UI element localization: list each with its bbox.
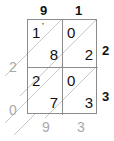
lattice-multiplication-figure: 9 1 2 3 2 0 9 3 1 ’ 8 0 2 2 7 0 3 — [0, 0, 114, 141]
lattice-cell-r0c0: 1 ’ 8 — [28, 20, 62, 67]
cell-units-digit: 8 — [50, 47, 58, 62]
multiplier-digit-1: 3 — [102, 90, 109, 103]
result-digit-bottom-0: 9 — [42, 120, 50, 134]
cell-tens-digit: 2 — [32, 73, 40, 88]
multiplicand-digit-1: 1 — [75, 4, 82, 17]
lattice-cell-r1c0: 2 7 — [28, 68, 62, 115]
lattice-cell-r0c1: 0 2 — [63, 20, 97, 67]
lattice-cell-r1c1: 0 3 — [63, 68, 97, 115]
multiplicand-digit-0: 9 — [40, 4, 47, 17]
diagonal-line-d — [14, 114, 35, 135]
result-digit-bottom-1: 3 — [77, 120, 85, 134]
cell-carry-tick: ’ — [42, 22, 44, 31]
multiplier-digit-0: 2 — [102, 44, 109, 57]
result-digit-left-0: 2 — [9, 60, 17, 74]
cell-units-digit: 3 — [85, 95, 93, 110]
cell-units-digit: 2 — [85, 47, 93, 62]
cell-tens-digit: 1 — [32, 25, 40, 40]
lattice-grid: 1 ’ 8 0 2 2 7 0 3 — [27, 19, 97, 114]
cell-tens-digit: 0 — [67, 73, 75, 88]
cell-units-digit: 7 — [50, 95, 58, 110]
cell-tens-digit: 0 — [67, 25, 75, 40]
result-digit-left-1: 0 — [9, 103, 17, 117]
